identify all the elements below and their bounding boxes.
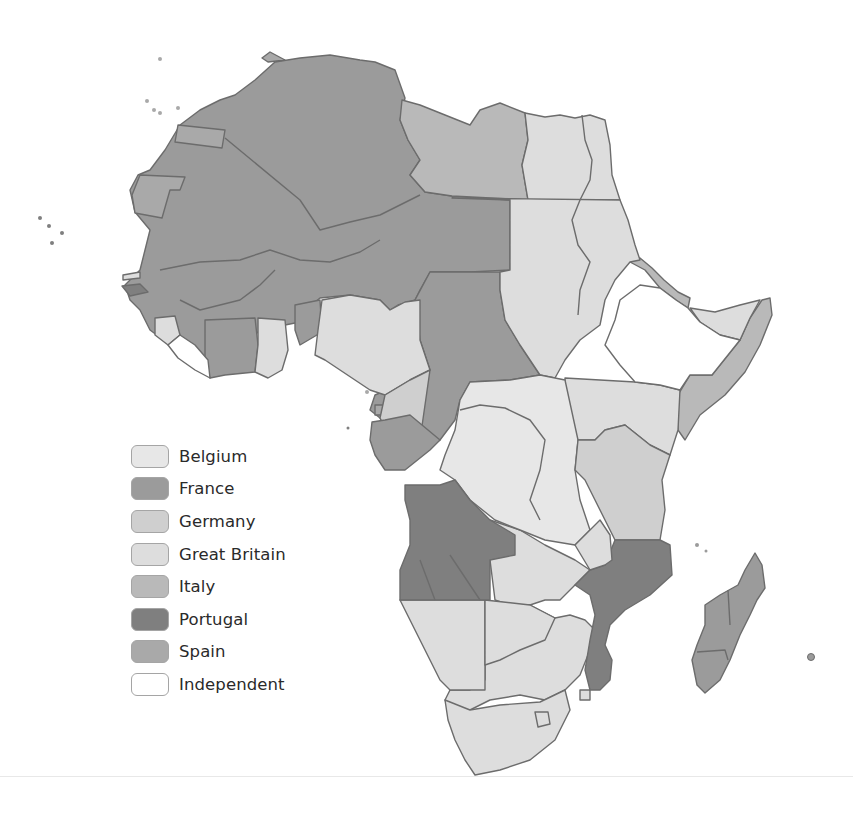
legend-swatch-great-britain <box>131 543 169 566</box>
island-sao-tome <box>347 427 350 430</box>
legend-label: Belgium <box>179 447 247 466</box>
region-gb-basutoland <box>535 712 550 727</box>
island-canaries-2 <box>145 99 149 103</box>
legend-swatch-italy <box>131 575 169 598</box>
region-gb-swaziland <box>580 690 590 700</box>
legend-label: Independent <box>179 675 285 694</box>
legend-item-independent: Independent <box>131 668 331 701</box>
legend-swatch-france <box>131 477 169 500</box>
island-canaries-3 <box>152 108 156 112</box>
island-bioko <box>365 390 369 394</box>
region-france-madagascar <box>692 553 765 693</box>
region-gb-gambia <box>123 272 140 280</box>
legend-item-france: France <box>131 473 331 506</box>
island-cape-verde-2 <box>47 224 51 228</box>
island-comoros-2 <box>705 550 708 553</box>
legend-label: France <box>179 479 234 498</box>
bottom-divider <box>0 776 853 777</box>
legend-swatch-portugal <box>131 608 169 631</box>
island-reunion <box>808 654 815 661</box>
legend-item-spain: Spain <box>131 636 331 669</box>
legend-item-great-britain: Great Britain <box>131 538 331 571</box>
legend-swatch-belgium <box>131 445 169 468</box>
region-gb-gold-coast <box>255 318 288 378</box>
legend-item-germany: Germany <box>131 505 331 538</box>
africa-colonial-map <box>0 0 853 822</box>
legend-item-belgium: Belgium <box>131 440 331 473</box>
legend-label: Spain <box>179 642 226 661</box>
legend-label: Germany <box>179 512 256 531</box>
island-cape-verde-3 <box>60 231 64 235</box>
island-canaries-4 <box>158 111 162 115</box>
legend-label: Great Britain <box>179 545 286 564</box>
region-gb-egypt <box>522 113 620 200</box>
legend-swatch-spain <box>131 640 169 663</box>
legend-item-portugal: Portugal <box>131 603 331 636</box>
region-gb-southwest-africa <box>400 600 485 690</box>
island-canaries-1 <box>158 57 162 61</box>
map-legend: Belgium France Germany Great Britain Ita… <box>131 440 331 701</box>
legend-label: Portugal <box>179 610 248 629</box>
region-italy-libya <box>400 100 528 200</box>
legend-swatch-germany <box>131 510 169 533</box>
island-cape-verde-1 <box>38 216 42 220</box>
region-spain-north <box>262 52 285 62</box>
legend-item-italy: Italy <box>131 570 331 603</box>
legend-swatch-independent <box>131 673 169 696</box>
region-france-ivory-coast <box>205 318 258 378</box>
island-cape-verde-4 <box>50 241 54 245</box>
legend-label: Italy <box>179 577 215 596</box>
island-canaries-5 <box>176 106 180 110</box>
island-comoros-1 <box>695 543 699 547</box>
